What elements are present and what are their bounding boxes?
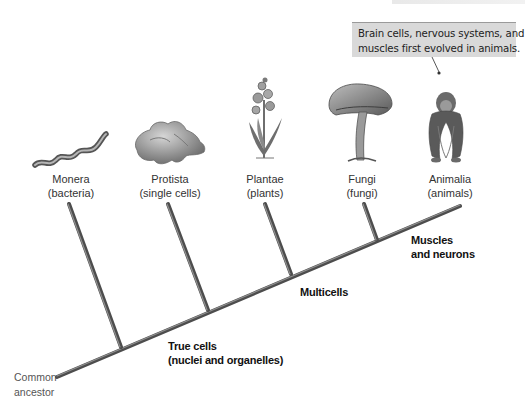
kingdom-common-name: (single cells) [125,186,215,200]
protist-illustration [135,122,204,164]
root-line-2: ancestor [14,385,57,400]
trait-line-2: and neurons [411,247,475,261]
root-line-1: Common [14,370,57,385]
kingdom-name: Animalia [405,172,495,186]
trait-label-muscles-neurons: Muscles and neurons [411,233,475,261]
kingdom-common-name: (plants) [220,186,310,200]
callout-pointer [432,57,441,75]
kingdom-label-protista: Protista (single cells) [125,172,215,200]
kingdom-name: Monera [26,172,116,186]
kingdom-common-name: (animals) [405,186,495,200]
callout-box: Brain cells, nervous systems, and muscle… [352,22,516,57]
kingdom-name: Fungi [317,172,407,186]
trait-line-1: Muscles [411,233,475,247]
kingdom-label-fungi: Fungi (fungi) [317,172,407,200]
plant-illustration [249,78,282,159]
trait-line-1: Multicells [300,285,348,299]
branch-plantae [264,204,291,274]
branch-fungi [363,204,377,240]
kingdom-name: Plantae [220,172,310,186]
trait-line-1: True cells [168,339,283,353]
chimpanzee-illustration [429,92,463,163]
branch-monera [68,204,121,347]
trait-line-2: (nuclei and organelles) [168,353,283,367]
kingdom-name: Protista [125,172,215,186]
mushroom-illustration [329,84,392,161]
branch-protista [167,204,208,310]
kingdom-label-monera: Monera (bacteria) [26,172,116,200]
trait-label-true-cells: True cells (nuclei and organelles) [168,339,283,367]
trait-label-multicells: Multicells [300,285,348,299]
callout-line-1: Brain cells, nervous systems, and [358,26,516,41]
root-label-common-ancestor: Common ancestor [14,370,57,400]
kingdom-common-name: (bacteria) [26,186,116,200]
callout-line-2: muscles first evolved in animals. [358,41,516,56]
bacteria-illustration [35,134,106,165]
kingdom-label-plantae: Plantae (plants) [220,172,310,200]
kingdom-common-name: (fungi) [317,186,407,200]
kingdom-label-animalia: Animalia (animals) [405,172,495,200]
